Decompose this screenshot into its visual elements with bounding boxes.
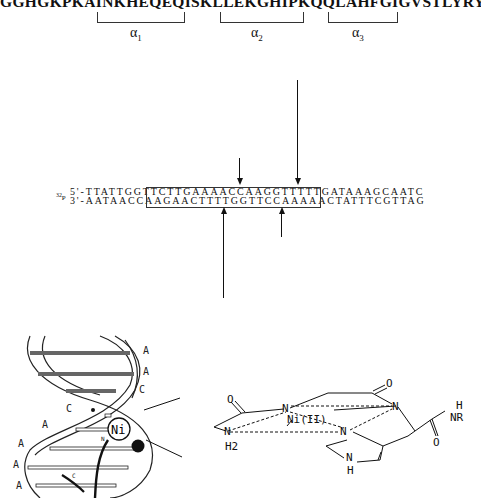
svg-text:A: A <box>18 438 24 449</box>
svg-text:A: A <box>13 459 19 470</box>
svg-text:H2: H2 <box>225 440 238 453</box>
svg-text:N: N <box>224 425 231 438</box>
svg-text:C: C <box>139 384 145 395</box>
svg-text:A: A <box>42 419 48 430</box>
svg-text:N: N <box>340 425 347 438</box>
svg-text:H: H <box>347 464 354 477</box>
svg-text:A: A <box>143 366 149 377</box>
svg-text:N: N <box>392 400 399 413</box>
svg-text:Ni(II): Ni(II) <box>287 413 327 426</box>
svg-text:NR: NR <box>450 411 464 424</box>
svg-text:C: C <box>72 472 76 479</box>
svg-text:A: A <box>16 480 22 491</box>
svg-text:N: N <box>101 435 105 442</box>
svg-text:O: O <box>227 393 234 406</box>
svg-text:Ni: Ni <box>111 423 125 437</box>
binding-point <box>132 440 145 453</box>
dna-helix-illustration: Ni A A C C A A A A C N <box>0 0 481 498</box>
svg-text:A: A <box>143 345 149 356</box>
svg-text:N: N <box>346 451 353 464</box>
svg-text:O: O <box>386 377 393 390</box>
svg-text:O: O <box>433 436 440 449</box>
svg-text:C: C <box>66 403 72 414</box>
